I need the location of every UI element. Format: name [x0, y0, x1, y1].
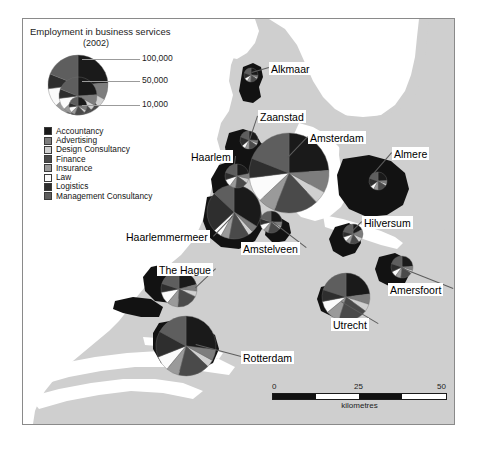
place-label-almere[interactable]: Almere [392, 147, 429, 160]
place-label-utrecht[interactable]: Utrecht [331, 318, 369, 331]
legend-panel: Employment in business services (2002) 1… [30, 26, 192, 201]
legend-swatch-icon [44, 127, 52, 135]
legend-swatch-icon [44, 137, 52, 145]
scale-tick-50000: 50,000 [142, 75, 168, 85]
category-legend: AccountancyAdvertisingDesign Consultancy… [44, 127, 192, 201]
place-label-zaanstad[interactable]: Zaanstad [258, 110, 306, 123]
scale-leader-10k [82, 105, 140, 106]
place-label-alkmaar[interactable]: Alkmaar [269, 62, 312, 75]
map-figure: Employment in business services (2002) 1… [0, 0, 482, 449]
scale-bar-segment-3 [359, 394, 402, 399]
scale-leader-100k [82, 59, 140, 60]
scale-bar-tick-50: 50 [437, 382, 446, 391]
place-label-the-hague[interactable]: The Hague [157, 263, 213, 276]
legend-swatch-icon [44, 164, 52, 172]
legend-key-management-consultancy: Management Consultancy [44, 192, 192, 201]
place-label-haarlem[interactable]: Haarlem [189, 150, 233, 163]
legend-title: Employment in business services [30, 26, 192, 38]
place-label-haarlemmermeer[interactable]: Haarlemmermeer [124, 230, 210, 243]
place-label-hilversum[interactable]: Hilversum [362, 216, 413, 229]
scale-bar: 0 25 50 kilometres [272, 382, 447, 410]
legend-key-label: Management Consultancy [56, 192, 152, 201]
legend-swatch-icon [44, 174, 52, 182]
scale-tick-100000: 100,000 [142, 53, 173, 63]
legend-swatch-icon [44, 183, 52, 191]
legend-subtitle: (2002) [30, 38, 162, 49]
scale-bar-segment-1 [273, 394, 316, 399]
legend-key-design-consultancy: Design Consultancy [44, 146, 192, 155]
scale-bar-ticks: 0 25 50 [272, 382, 447, 393]
place-label-amsterdam[interactable]: Amsterdam [308, 131, 366, 144]
scale-tick-10000: 10,000 [142, 99, 168, 109]
size-legend-ring-2 [69, 97, 87, 115]
place-label-amersfoort[interactable]: Amersfoort [388, 283, 443, 296]
legend-key-logistics: Logistics [44, 183, 192, 192]
size-legend: 100,000 50,000 10,000 [30, 51, 190, 123]
legend-swatch-icon [44, 155, 52, 163]
place-label-amstelveen[interactable]: Amstelveen [241, 242, 300, 255]
scale-leader-50k [82, 81, 140, 82]
scale-bar-graphic [272, 393, 447, 400]
scale-bar-tick-25: 25 [354, 382, 363, 391]
size-legend-pie [46, 51, 114, 121]
scale-bar-caption: kilometres [272, 401, 447, 410]
legend-swatch-icon [44, 146, 52, 154]
legend-swatch-icon [44, 192, 52, 200]
place-label-rotterdam[interactable]: Rotterdam [241, 351, 294, 364]
legend-key-label: Design Consultancy [56, 145, 130, 154]
scale-bar-tick-0: 0 [272, 382, 276, 391]
